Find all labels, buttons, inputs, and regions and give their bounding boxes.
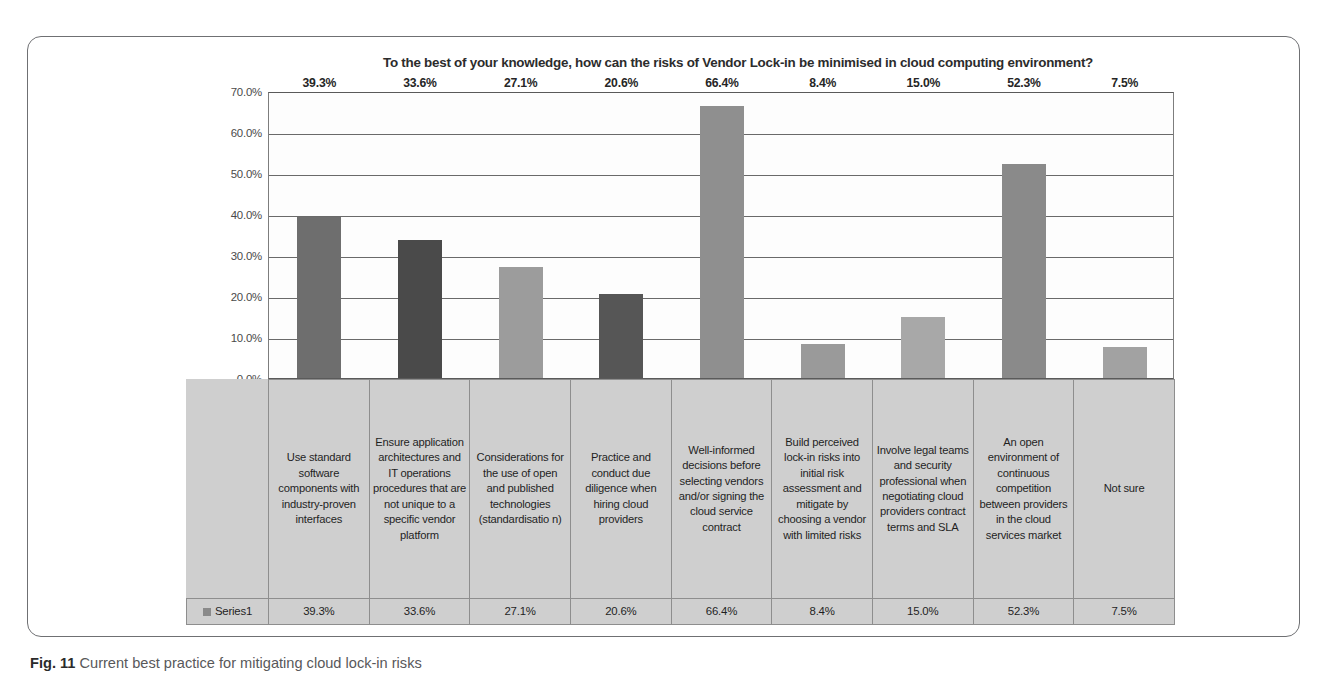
value-cell: 52.3% — [973, 599, 1074, 625]
legend-series1: Series1 — [187, 599, 269, 625]
value-cell: 66.4% — [671, 599, 772, 625]
chart-title: To the best of your knowledge, how can t… — [268, 55, 1208, 70]
category-row: Use standard software components with in… — [187, 380, 1175, 599]
bar-value-label: 66.4% — [705, 76, 739, 90]
bar-slot: 27.1% — [470, 93, 571, 378]
value-cell: 15.0% — [872, 599, 973, 625]
bar-value-label: 15.0% — [907, 76, 941, 90]
bar-slot: 7.5% — [1074, 93, 1175, 378]
figure-number: Fig. 11 — [30, 655, 75, 671]
corner-cell — [187, 380, 269, 599]
bar[interactable]: 7.5% — [1103, 347, 1147, 378]
value-cell: 27.1% — [470, 599, 571, 625]
category-cell: Ensure application architectures and IT … — [369, 380, 470, 599]
category-cell: An open environment of continuous compet… — [973, 380, 1074, 599]
y-axis-tick: 40.0% — [192, 209, 262, 221]
bar-slot: 39.3% — [269, 93, 370, 378]
plot-area: 39.3%33.6%27.1%20.6%66.4%8.4%15.0%52.3%7… — [268, 92, 1174, 379]
bar-value-label: 39.3% — [303, 76, 337, 90]
y-axis-tick: 20.0% — [192, 291, 262, 303]
category-cell: Use standard software components with in… — [269, 380, 370, 599]
plot-area-wrapper: 39.3%33.6%27.1%20.6%66.4%8.4%15.0%52.3%7… — [268, 92, 1174, 379]
bar-slot: 20.6% — [571, 93, 672, 378]
bar-value-label: 33.6% — [403, 76, 437, 90]
bar[interactable]: 15.0% — [901, 317, 945, 379]
bar-value-label: 20.6% — [605, 76, 639, 90]
bar-slot: 66.4% — [672, 93, 773, 378]
value-cell: 33.6% — [369, 599, 470, 625]
bar-slot: 15.0% — [873, 93, 974, 378]
bar[interactable]: 33.6% — [398, 240, 442, 378]
caption-spacer — [22, 647, 25, 679]
bar[interactable]: 39.3% — [297, 217, 341, 378]
figure-caption: Fig. 11 Current best practice for mitiga… — [30, 655, 422, 671]
y-axis: 70.0%60.0%50.0%40.0%30.0%20.0%10.0%0.0% — [186, 92, 262, 379]
bar-value-label: 52.3% — [1007, 76, 1041, 90]
bar[interactable]: 27.1% — [499, 267, 543, 378]
y-axis-tick: 10.0% — [192, 332, 262, 344]
legend-swatch-icon — [203, 608, 211, 616]
bar[interactable]: 8.4% — [801, 344, 845, 378]
value-cell: 8.4% — [772, 599, 873, 625]
category-cell: Not sure — [1074, 380, 1175, 599]
y-axis-tick: 70.0% — [192, 86, 262, 98]
category-cell: Well-informed decisions before selecting… — [671, 380, 772, 599]
bar-slot: 52.3% — [974, 93, 1075, 378]
value-row: Series1 39.3%33.6%27.1%20.6%66.4%8.4%15.… — [187, 599, 1175, 625]
bar-value-label: 8.4% — [809, 76, 836, 90]
category-cell: Considerations for the use of open and p… — [470, 380, 571, 599]
bar-value-label: 27.1% — [504, 76, 538, 90]
category-value-table: Use standard software components with in… — [186, 379, 1175, 625]
value-cell: 7.5% — [1074, 599, 1175, 625]
y-axis-tick: 50.0% — [192, 168, 262, 180]
legend-label: Series1 — [215, 605, 252, 617]
bar[interactable]: 52.3% — [1002, 164, 1046, 378]
category-cell: Build perceived lock-in risks into initi… — [772, 380, 873, 599]
y-axis-tick: 30.0% — [192, 250, 262, 262]
category-cell: Involve legal teams and security profess… — [872, 380, 973, 599]
bar[interactable]: 20.6% — [599, 294, 643, 378]
bar-slot: 8.4% — [772, 93, 873, 378]
value-cell: 20.6% — [570, 599, 671, 625]
figure-page: To the best of your knowledge, how can t… — [0, 0, 1326, 699]
value-cell: 39.3% — [269, 599, 370, 625]
bar-slot: 33.6% — [370, 93, 471, 378]
bar-value-label: 7.5% — [1111, 76, 1138, 90]
figure-caption-text: Current best practice for mitigating clo… — [79, 655, 421, 671]
y-axis-tick: 60.0% — [192, 127, 262, 139]
bar[interactable]: 66.4% — [700, 106, 744, 378]
category-cell: Practice and conduct due diligence when … — [570, 380, 671, 599]
